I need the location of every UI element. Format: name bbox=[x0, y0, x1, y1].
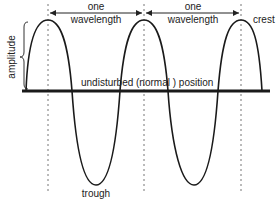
wavelength-2-top-label: one bbox=[185, 1, 202, 12]
wave-diagram: one wavelength one wavelength crest ampl… bbox=[0, 0, 277, 208]
wavelength-1-bottom-label: wavelength bbox=[70, 14, 122, 25]
amplitude-label: amplitude bbox=[6, 35, 17, 79]
wavelength-1-top-label: one bbox=[88, 1, 105, 12]
baseline-label: undisturbed (normal ) position bbox=[81, 77, 213, 88]
wavelength-2-bottom-label: wavelength bbox=[167, 14, 219, 25]
crest-label: crest bbox=[253, 14, 275, 25]
crest-reference-lines bbox=[48, 4, 241, 193]
trough-label: trough bbox=[82, 188, 110, 199]
